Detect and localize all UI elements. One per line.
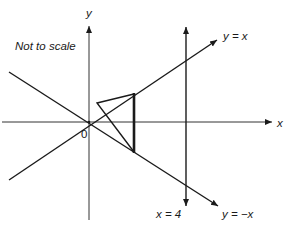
origin-label: 0 [81, 128, 87, 140]
triangle-outline [97, 94, 134, 152]
label-x-equals-4: x = 4 [155, 208, 181, 220]
label-y-equals-x: y = x [222, 30, 249, 42]
origin-point [88, 121, 91, 124]
x-axis-label: x [276, 117, 284, 129]
label-y-equals-neg-x: y = −x [221, 208, 255, 220]
coordinate-diagram: Not to scale y x 0 y = x x = 4 y = −x [0, 0, 291, 232]
note-not-to-scale: Not to scale [15, 40, 76, 52]
y-axis-label: y [85, 7, 93, 19]
